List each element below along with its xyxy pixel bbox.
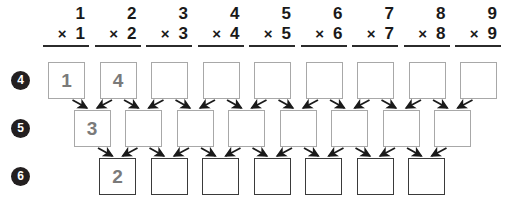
cell-r6-c4[interactable]	[254, 158, 291, 195]
cell-r6-c3[interactable]	[202, 158, 239, 195]
arrow-r5c7-to-r6c7	[407, 148, 422, 156]
multiplier-9: 9	[488, 24, 497, 44]
multiply-icon: ×	[264, 24, 273, 44]
column-header-5: 5×5	[249, 4, 295, 47]
equation-rule-6	[301, 45, 347, 47]
multiply-icon: ×	[315, 24, 324, 44]
multiply-icon: ×	[109, 24, 118, 44]
multiply-icon: ×	[367, 24, 376, 44]
multiplicand-8: 8	[404, 4, 450, 24]
column-header-6: 6×6	[301, 4, 347, 47]
multiplicand-3: 3	[146, 4, 192, 24]
arrow-r5c6-to-r6c5	[329, 148, 344, 156]
cell-r4-c5[interactable]	[254, 62, 291, 99]
cell-r6-c6[interactable]	[357, 158, 394, 195]
multiplicand-7: 7	[352, 4, 398, 24]
multiplicand-2: 2	[95, 4, 141, 24]
column-header-9: 9×9	[455, 4, 501, 47]
equation-rule-8	[404, 45, 450, 47]
multiplier-row-4: ×4	[198, 24, 244, 44]
cell-r5-c3[interactable]	[177, 110, 214, 147]
cell-r4-c9[interactable]	[460, 62, 497, 99]
arrow-r5c8-to-r6c7	[432, 148, 447, 156]
column-header-1: 1×1	[43, 4, 89, 47]
multiplier-8: 8	[436, 24, 445, 44]
arrow-r5c2-to-r6c1	[123, 148, 138, 156]
cell-r6-c1[interactable]: 2	[99, 158, 136, 195]
column-header-8: 8×8	[404, 4, 450, 47]
arrow-r5c4-to-r6c3	[226, 148, 241, 156]
cell-r5-c7[interactable]	[383, 110, 420, 147]
multiplier-row-7: ×7	[352, 24, 398, 44]
multiplier-4: 4	[230, 24, 239, 44]
cell-r4-c4[interactable]	[203, 62, 240, 99]
arrow-r4c7-to-r5c6	[355, 100, 370, 108]
cell-r5-c4[interactable]	[228, 110, 265, 147]
cell-r5-c5[interactable]	[280, 110, 317, 147]
arrow-r5c1-to-r6c1	[98, 148, 113, 156]
multiply-icon: ×	[58, 24, 67, 44]
cell-r4-c1[interactable]: 1	[48, 62, 85, 99]
cell-r6-c2[interactable]	[151, 158, 188, 195]
multiply-icon: ×	[470, 24, 479, 44]
cell-r5-c6[interactable]	[331, 110, 368, 147]
cell-r4-c6[interactable]	[306, 62, 343, 99]
column-header-3: 3×3	[146, 4, 192, 47]
cell-r5-c8[interactable]	[434, 110, 471, 147]
row-marker-4: 4	[11, 71, 30, 90]
arrow-r4c5-to-r5c4	[252, 100, 267, 108]
multiplicand-9: 9	[455, 4, 501, 24]
arrow-r4c3-to-r5c2	[149, 100, 164, 108]
cell-r5-c2[interactable]	[125, 110, 162, 147]
arrow-r4c8-to-r5c8	[433, 100, 448, 108]
cell-r4-c3[interactable]	[151, 62, 188, 99]
multiply-icon: ×	[418, 24, 427, 44]
multiplicand-5: 5	[249, 4, 295, 24]
column-header-7: 7×7	[352, 4, 398, 47]
multiplier-row-3: ×3	[146, 24, 192, 44]
arrow-r4c4-to-r5c3	[200, 100, 215, 108]
multiplier-7: 7	[385, 24, 394, 44]
equation-rule-3	[146, 45, 192, 47]
cell-r4-c8[interactable]	[409, 62, 446, 99]
cell-r4-c2[interactable]: 4	[100, 62, 137, 99]
arrow-r5c2-to-r6c2	[150, 148, 165, 156]
arrow-r4c2-to-r5c1	[97, 100, 112, 108]
arrow-r4c5-to-r5c5	[279, 100, 294, 108]
multiplier-2: 2	[127, 24, 136, 44]
column-header-4: 4×4	[198, 4, 244, 47]
equation-rule-4	[198, 45, 244, 47]
arrow-r5c3-to-r6c2	[174, 148, 189, 156]
multiplier-5: 5	[282, 24, 291, 44]
equation-rule-5	[249, 45, 295, 47]
arrow-r4c9-to-r5c8	[458, 100, 473, 108]
multiplier-3: 3	[179, 24, 188, 44]
multiply-icon: ×	[212, 24, 221, 44]
arrow-r5c4-to-r6c4	[253, 148, 268, 156]
multiplier-row-1: ×1	[43, 24, 89, 44]
cell-r4-c7[interactable]	[357, 62, 394, 99]
cell-r6-c7[interactable]	[408, 158, 445, 195]
equation-rule-2	[95, 45, 141, 47]
arrow-r5c5-to-r6c5	[304, 148, 319, 156]
equation-rule-7	[352, 45, 398, 47]
column-header-2: 2×2	[95, 4, 141, 47]
multiplier-row-6: ×6	[301, 24, 347, 44]
equation-rule-1	[43, 45, 89, 47]
row-marker-5: 5	[11, 119, 30, 138]
arrow-r5c7-to-r6c6	[380, 148, 395, 156]
arrow-r5c6-to-r6c6	[356, 148, 371, 156]
multiplier-row-5: ×5	[249, 24, 295, 44]
multiplier-6: 6	[333, 24, 342, 44]
equation-rule-9	[455, 45, 501, 47]
multiplier-row-9: ×9	[455, 24, 501, 44]
row-marker-6: 6	[11, 167, 30, 186]
cell-r6-c5[interactable]	[305, 158, 342, 195]
multiplicand-4: 4	[198, 4, 244, 24]
arrow-r4c4-to-r5c4	[227, 100, 242, 108]
multiplier-row-2: ×2	[95, 24, 141, 44]
arrow-r4c3-to-r5c3	[176, 100, 191, 108]
arrow-r4c1-to-r5c1	[73, 100, 88, 108]
cell-r5-c1[interactable]: 3	[74, 110, 111, 147]
multiply-icon: ×	[161, 24, 170, 44]
